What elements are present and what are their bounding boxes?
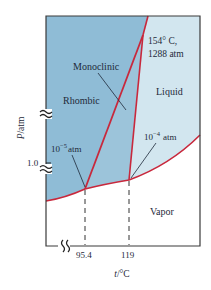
label-liquid: Liquid — [156, 86, 183, 97]
x-axis-break-icon — [58, 240, 70, 252]
x-tick-label-119: 119 — [121, 250, 135, 260]
x-tick-label-95-4: 95.4 — [76, 250, 92, 260]
y-axis-break-upper-icon — [40, 109, 52, 119]
annotation-1e-4-unit: atm — [163, 132, 177, 142]
annotation-1288-atm: 1288 atm — [148, 49, 184, 59]
annotation-1e-4-exp: −4 — [153, 130, 161, 137]
y-axis-break-lower-icon — [40, 164, 52, 174]
x-axis-title-unit: /°C — [117, 269, 130, 279]
y-axis-title: P/atm — [16, 116, 26, 140]
label-rhombic: Rhombic — [63, 95, 100, 106]
sulfur-phase-diagram: Monoclinic Rhombic Liquid Vapor 154° C, … — [0, 0, 211, 290]
y-tick-label-1-0: 1.0 — [27, 158, 39, 168]
label-vapor: Vapor — [150, 206, 175, 217]
annotation-154c: 154° C, — [148, 36, 177, 46]
annotation-1e-5-exp: −5 — [60, 142, 67, 149]
annotation-1e-5-unit: atm — [68, 144, 82, 154]
label-monoclinic: Monoclinic — [73, 61, 120, 72]
x-axis-title: t/°C — [114, 269, 129, 279]
y-axis-title-unit: /atm — [16, 116, 26, 133]
